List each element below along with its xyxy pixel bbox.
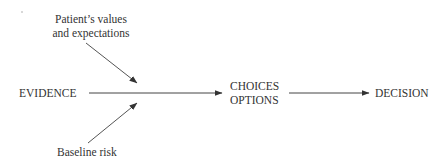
risk-to-main-arrow <box>88 103 137 143</box>
arrows-layer <box>0 0 445 166</box>
values-to-main-arrow <box>86 43 137 83</box>
